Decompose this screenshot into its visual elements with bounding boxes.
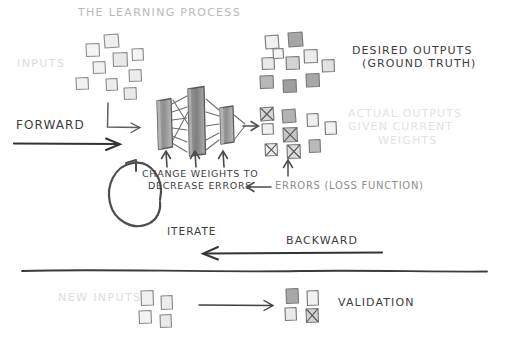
network-to-outputs-arrow [243, 122, 259, 131]
errors-label: ERRORS (LOSS FUNCTION) [275, 180, 424, 192]
errors-up-arrow [284, 160, 293, 176]
weight-update-arrows [162, 151, 228, 167]
actual-outputs-label: ACTUAL OUTPUTSGIVEN CURRENTWEIGHTS [348, 107, 462, 147]
change-weights-line2: DECREASE ERRORS [142, 180, 259, 192]
forward-label: FORWARD [16, 118, 85, 133]
network-layer-1 [157, 99, 173, 150]
actual-outputs-square-cluster [260, 107, 337, 159]
inputs-square-cluster [76, 34, 144, 100]
desired-outputs-line1: DESIRED OUTPUTS [352, 44, 473, 57]
desired-outputs-label: DESIRED OUTPUTS(GROUND TRUTH) [352, 44, 476, 71]
diagram-canvas: THE LEARNING PROCESS INPUTS FORWARD DESI… [0, 0, 505, 348]
backward-label: BACKWARD [286, 234, 358, 247]
diagram-title: THE LEARNING PROCESS [78, 6, 241, 19]
network-layer-3 [220, 106, 234, 144]
desired-outputs-square-cluster [260, 32, 335, 93]
change-weights-line1: CHANGE WEIGHTS TO [142, 168, 259, 179]
new-inputs-square-cluster [139, 291, 173, 328]
actual-outputs-line1: ACTUAL OUTPUTS [348, 107, 462, 120]
validation-arrow [199, 301, 273, 311]
inputs-label: INPUTS [17, 57, 65, 70]
iterate-label: ITERATE [167, 225, 216, 238]
actual-outputs-line2: GIVEN CURRENT [348, 120, 462, 133]
desired-outputs-line2: (GROUND TRUTH) [352, 57, 476, 70]
forward-arrow [14, 139, 120, 151]
validation-label: VALIDATION [338, 296, 415, 309]
change-weights-label: CHANGE WEIGHTS TODECREASE ERRORS [142, 168, 259, 191]
inputs-to-network-arrow [108, 103, 141, 133]
validation-outputs-square-cluster [285, 289, 319, 323]
actual-outputs-line3: WEIGHTS [348, 134, 462, 147]
new-inputs-label: NEW INPUTS [58, 291, 141, 304]
divider-line [22, 270, 487, 271]
network-layer-2 [188, 87, 206, 157]
backward-arrow [203, 247, 382, 260]
